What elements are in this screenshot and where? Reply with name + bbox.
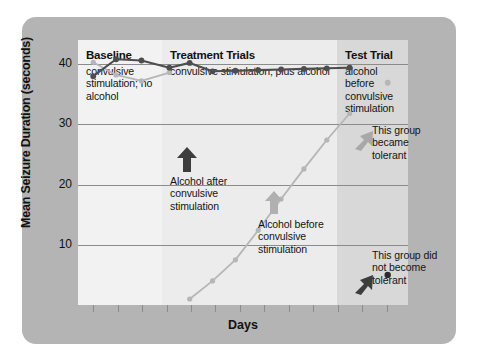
alcohol-before-baseline-point-1: [113, 72, 118, 77]
annotation-did-not-become-tolerant: This group did not become tolerant: [372, 249, 442, 286]
test-became-tolerant-point-0: [385, 80, 391, 86]
x-tick-6: [240, 305, 241, 312]
alcohol-before-baseline-point-2: [139, 78, 144, 83]
alcohol-before-baseline-point-0: [91, 60, 96, 65]
down-left-arrow-icon-did-not-become-tolerant: [352, 274, 374, 296]
x-tick-3: [167, 305, 168, 312]
annotation-alcohol-before: Alcohol before convulsive stimulation: [258, 218, 353, 255]
alcohol-after-point-1: [113, 56, 119, 62]
x-tick-1: [118, 305, 119, 312]
alcohol-after-point-5: [210, 68, 216, 74]
alcohol-after-point-4: [187, 60, 193, 66]
y-tick-label-30: 30: [46, 116, 72, 130]
up-arrow-icon-alcohol-after: [176, 146, 198, 172]
y-tick-label-20: 20: [46, 177, 72, 191]
x-tick-4: [191, 305, 192, 312]
alcohol-after-point-7: [255, 67, 261, 73]
alcohol-after-point-3: [166, 65, 172, 71]
y-tick-label-40: 40: [46, 56, 72, 70]
y-tick-label-10: 10: [46, 237, 72, 251]
x-tick-7: [264, 305, 265, 312]
alcohol-before-rising-point-2: [233, 257, 238, 262]
x-tick-11: [362, 305, 363, 312]
x-tick-0: [93, 305, 94, 312]
alcohol-after-point-11: [347, 65, 353, 71]
down-left-arrow-icon-became-tolerant: [352, 130, 374, 152]
alcohol-before-rising-point-7: [347, 111, 352, 116]
alcohol-after-point-9: [301, 66, 307, 72]
alcohol-before-rising-point-5: [301, 166, 306, 171]
x-tick-5: [215, 305, 216, 312]
x-tick-8: [289, 305, 290, 312]
plot-area: [78, 40, 408, 305]
x-tick-10: [338, 305, 339, 312]
alcohol-before-baseline-point-3: [167, 70, 172, 75]
x-axis-label: Days: [78, 318, 408, 332]
x-tick-12: [387, 305, 388, 312]
up-arrow-icon-alcohol-before: [264, 190, 284, 214]
x-axis: [78, 305, 408, 313]
alcohol-after-point-2: [139, 58, 145, 64]
alcohol-after-point-6: [232, 68, 238, 74]
alcohol-after-point-10: [324, 65, 330, 71]
annotation-became-tolerant: This group became tolerant: [372, 124, 442, 161]
series-line: [93, 59, 349, 76]
alcohol-before-rising-point-1: [210, 278, 215, 283]
alcohol-after-point-8: [278, 67, 284, 73]
alcohol-before-rising-point-0: [187, 296, 192, 301]
alcohol-after-point-0: [90, 73, 96, 79]
x-tick-9: [313, 305, 314, 312]
y-axis-label: Mean Seizure Duration (seconds): [16, 0, 36, 265]
figure-root: Baseline convulsive stimulation; no alco…: [0, 0, 478, 361]
annotation-alcohol-after: Alcohol after convulsive stimulation: [170, 175, 265, 212]
x-tick-2: [142, 305, 143, 312]
alcohol-before-rising-point-6: [324, 137, 329, 142]
